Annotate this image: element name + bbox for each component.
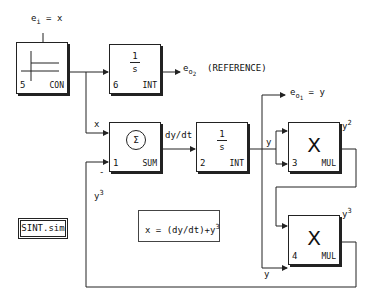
block-number: 6 [113, 80, 118, 90]
transfer-function: 1 s [110, 51, 160, 74]
derivative-label: dy/dt [165, 131, 192, 140]
multiplier-block-4[interactable]: X 4 MUL [288, 215, 340, 265]
sigma-icon: Σ [126, 130, 146, 150]
minus-sign: - [99, 168, 104, 177]
x-signal-label: x [94, 120, 99, 129]
y-cubed-label-left: y3 [94, 190, 104, 201]
constant-block[interactable]: 5 CON [16, 42, 68, 94]
integrator-block-6[interactable]: 1 s 6 INT [109, 44, 161, 94]
multiply-icon: X [289, 226, 339, 250]
output-label: eo1 = y [290, 88, 325, 102]
integrator-block-2[interactable]: 1 s 2 INT [196, 122, 248, 172]
sum-block[interactable]: Σ 1 SUM [109, 122, 161, 172]
block-number: 2 [200, 158, 205, 168]
equation-box: x = (dy/dt)+y3 [138, 210, 220, 242]
y-cubed-label-right: y3 [342, 208, 352, 219]
block-type: INT [230, 159, 244, 168]
y-signal-label-bottom: y [264, 270, 269, 279]
transfer-function: 1 s [197, 129, 247, 152]
block-number: 1 [113, 158, 118, 168]
block-type: MUL [322, 252, 336, 261]
y-squared-label: y2 [342, 120, 352, 131]
block-number: 3 [292, 158, 297, 168]
reference-output-label: eo2 (REFERENCE) [183, 64, 267, 78]
block-number: 5 [20, 80, 25, 90]
multiply-icon: X [289, 133, 339, 157]
block-number: 4 [292, 251, 297, 261]
input-label: ei = x [31, 14, 62, 26]
y-signal-label: y [266, 138, 271, 147]
block-type: MUL [322, 159, 336, 168]
block-type: SUM [143, 159, 157, 168]
multiplier-block-3[interactable]: X 3 MUL [288, 122, 340, 172]
block-type: INT [143, 81, 157, 90]
block-type: CON [50, 81, 64, 90]
file-name-box: SINT.sim [18, 218, 68, 239]
